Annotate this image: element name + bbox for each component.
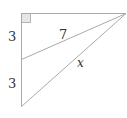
triangle-diagram: 3 3 7 x <box>0 0 127 118</box>
label-inner-hypotenuse: 7 <box>59 27 67 42</box>
right-angle-marker <box>22 14 31 23</box>
label-upper-segment: 3 <box>8 29 16 44</box>
inner-hypotenuse <box>22 14 127 60</box>
label-lower-segment: 3 <box>8 76 16 91</box>
label-outer-hypotenuse: x <box>77 56 84 70</box>
outer-hypotenuse <box>22 14 127 107</box>
